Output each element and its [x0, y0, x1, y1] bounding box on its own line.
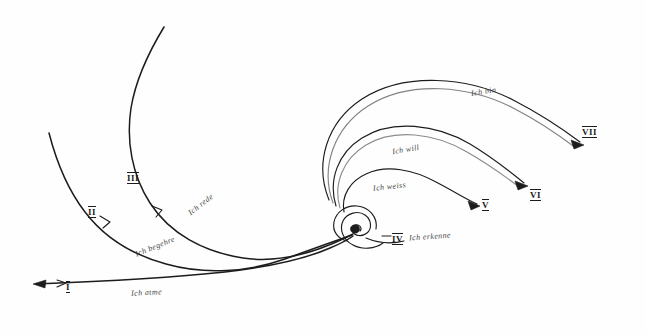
spiral-drawing [0, 0, 646, 335]
curve-arm-7 [323, 80, 580, 200]
numeral-stage-4: IV [392, 233, 403, 245]
arrow-tick-arm-2 [100, 216, 110, 228]
numeral-stage-5: V [482, 199, 489, 211]
numeral-stage-4-text: IV [392, 234, 403, 244]
arrowhead-arm-7 [571, 140, 584, 149]
numeral-stage-3: III [127, 172, 139, 184]
curve-arm-6 [333, 126, 524, 206]
numeral-stage-2: II [88, 206, 96, 218]
core-spiral-outer [341, 213, 383, 249]
numeral-stage-7: VII [582, 126, 597, 138]
numeral-stage-1: I [66, 281, 70, 293]
numeral-stage-1-text: I [66, 282, 70, 292]
numeral-stage-6: VI [530, 189, 541, 201]
core-dot [350, 225, 359, 233]
numeral-stage-5-text: V [482, 200, 489, 210]
figure-canvas: I Ich atme II Ich begehre III Ich rede I… [0, 0, 646, 335]
curve-arm-3 [129, 27, 353, 259]
numeral-stage-2-text: II [88, 207, 96, 217]
numeral-stage-7-text: VII [582, 127, 597, 137]
arrowhead-arm-1-start [33, 280, 46, 288]
curve-arm-2 [49, 133, 352, 271]
numeral-stage-6-text: VI [530, 190, 541, 200]
curve-arm-5 [343, 169, 477, 212]
curve-arm-6-echo [338, 135, 518, 208]
numeral-stage-3-text: III [127, 173, 139, 183]
